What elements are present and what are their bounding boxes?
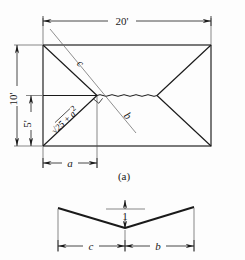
depth-dimension-label: 1 — [122, 210, 128, 222]
figure-caption-a: (a) — [118, 170, 131, 183]
right-fold-lines — [157, 45, 211, 146]
top-dimension-label: 20' — [116, 15, 129, 27]
left-dimension-5ft: 5' — [21, 96, 42, 147]
left-dimension-half-label: 5' — [21, 120, 33, 128]
right-angle-marker — [94, 98, 103, 103]
diagonal-b-label: b — [122, 109, 135, 121]
hypotenuse-label: √25 + a2 — [47, 103, 80, 135]
bottom-dimension-label: a — [67, 157, 73, 169]
center-fold-line — [43, 95, 157, 97]
diagonal-c-label: c — [75, 57, 87, 69]
left-dimension-full-label: 10' — [7, 92, 19, 105]
cross-section-b-label: b — [155, 240, 161, 252]
engineering-figure: 20' 10' 5' a c — [0, 0, 245, 260]
hypotenuse-label-group: √25 + a2 — [47, 103, 80, 135]
diagonal-c-label-group: c — [75, 57, 87, 69]
cross-section-c-label: c — [89, 240, 94, 252]
figure-canvas: 20' 10' 5' a c — [0, 0, 245, 260]
diagonal-b-label-group: b — [122, 109, 135, 121]
top-dimension-20ft: 20' — [43, 15, 211, 44]
